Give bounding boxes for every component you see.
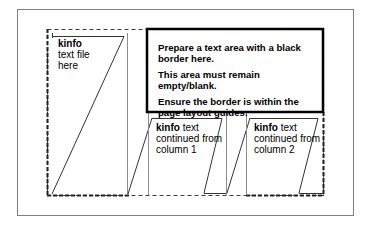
instruction-line-2: This area must remain empty/blank. (158, 69, 320, 91)
column-1-line-3: here (58, 60, 90, 71)
column-1-keyword: kinfo (58, 38, 82, 49)
column-2-keyword: kinfo (156, 122, 180, 133)
column-2-text: kinfo text continued from column 1 (156, 122, 222, 155)
column-2-line-2: continued from (156, 133, 222, 144)
column-1-text: kinfo text file here (58, 38, 90, 71)
column-3-line-3: column 2 (254, 144, 320, 155)
column-3-line-2: continued from (254, 133, 320, 144)
column-3-text: kinfo text continued from column 2 (254, 122, 320, 155)
column-1-line-2: text file (58, 49, 90, 60)
instructions-text: Prepare a text area with a black border … (158, 42, 320, 123)
column-3-keyword: kinfo (254, 122, 278, 133)
column-2-line-3: column 1 (156, 144, 222, 155)
instruction-line-1: Prepare a text area with a black border … (158, 42, 320, 64)
instruction-line-3: Ensure the border is within the page lay… (158, 96, 320, 118)
